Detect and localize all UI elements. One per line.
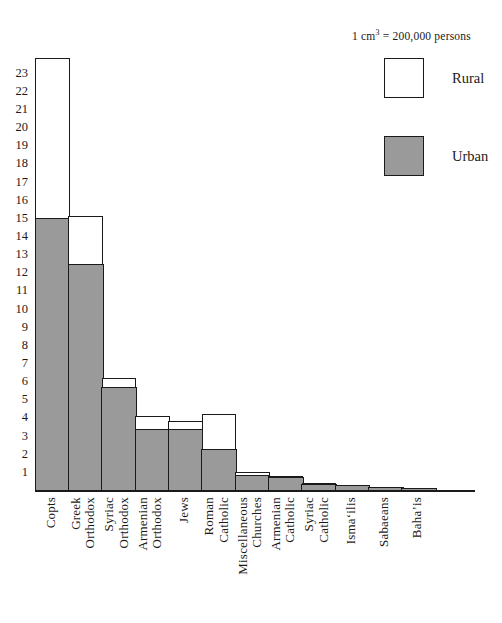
bar-urban-segment <box>301 484 337 490</box>
y-axis-tick: 16 <box>16 194 29 207</box>
bar-jews <box>168 421 203 490</box>
y-axis-tick: 15 <box>16 212 29 225</box>
y-axis-tick: 13 <box>16 248 29 261</box>
x-axis-label-line: Catholic <box>217 497 230 543</box>
x-axis-labels: CoptsGreekOrthodoxSyriacOrthodoxArmenian… <box>35 497 475 623</box>
bar-urban-segment <box>168 429 204 491</box>
bar-syriac-catholic <box>302 483 337 490</box>
bar-urban-segment <box>268 477 304 491</box>
x-axis-label-line: Baha’is <box>410 497 423 538</box>
y-axis-tick: 2 <box>22 447 28 460</box>
x-axis-label-line: Armenian <box>136 497 149 551</box>
x-axis-label-line: Copts <box>44 497 57 528</box>
bar-copts <box>35 58 70 490</box>
y-axis-tick: 6 <box>22 375 28 388</box>
y-axis: 2322212019181716151413121110987654321 <box>0 0 35 623</box>
y-axis-tick: 3 <box>22 429 28 442</box>
bar-urban-segment <box>368 487 404 490</box>
legend-scale-prefix: 1 cm <box>352 30 375 42</box>
y-axis-tick: 17 <box>16 175 29 188</box>
x-axis-label-line: Greek <box>69 497 82 530</box>
y-axis-tick: 5 <box>22 393 28 406</box>
y-axis-tick: 9 <box>22 320 28 333</box>
x-axis-label-line: Jews <box>177 497 190 523</box>
y-axis-tick: 11 <box>16 284 28 297</box>
plot-area <box>35 55 435 490</box>
population-bar-chart: 1 cm3 = 200,000 persons Rural Urban 2322… <box>0 0 502 623</box>
x-axis-label-line: Orthodox <box>117 497 130 548</box>
bar-syriac-orthodox <box>102 378 137 490</box>
y-axis-tick: 1 <box>22 466 28 479</box>
bar-greek-orthodox <box>68 216 103 490</box>
bar-baha-is <box>402 488 437 490</box>
bar-urban-segment <box>35 218 71 490</box>
legend-scale-note: 1 cm3 = 200,000 persons <box>352 28 502 42</box>
bar-miscellaneous-churches <box>235 472 270 490</box>
bar-roman-catholic <box>202 414 237 490</box>
x-axis-label-line: Sabaeans <box>377 497 390 547</box>
y-axis-tick: 20 <box>16 121 29 134</box>
bar-sabaeans <box>368 487 403 490</box>
x-axis-label-line: Isma‘ilis <box>344 497 357 544</box>
x-axis-label-line: Orthodox <box>150 497 163 548</box>
y-axis-tick: 22 <box>16 85 29 98</box>
x-axis-label-line: Catholic <box>317 497 330 543</box>
x-axis-label-line: Syriac <box>102 497 115 531</box>
legend-label-rural: Rural <box>452 70 484 87</box>
y-axis-tick: 18 <box>16 157 29 170</box>
x-axis-label-line: Orthodox <box>83 497 96 548</box>
x-axis-label-line: Roman <box>202 497 215 536</box>
y-axis-tick: 7 <box>22 357 28 370</box>
x-axis-label-line: Catholic <box>283 497 296 543</box>
x-axis-label-line: Churches <box>250 497 263 548</box>
bar-urban-segment <box>135 429 171 491</box>
x-axis-label-line: Syriac <box>302 497 315 531</box>
y-axis-tick: 21 <box>16 103 29 116</box>
y-axis-tick: 23 <box>16 67 29 80</box>
legend-scale-suffix: = 200,000 persons <box>380 30 471 42</box>
bar-armenian-orthodox <box>135 416 170 490</box>
bar-urban-segment <box>235 475 271 490</box>
x-axis-label-line: Miscellaneous <box>236 497 249 575</box>
bar-urban-segment <box>335 485 371 490</box>
bar-urban-segment <box>68 264 104 491</box>
bar-urban-segment <box>201 449 237 491</box>
bar-urban-segment <box>101 387 137 490</box>
y-axis-tick: 12 <box>16 266 29 279</box>
y-axis-tick: 8 <box>22 339 28 352</box>
chart-legend: 1 cm3 = 200,000 persons Rural Urban <box>352 28 502 42</box>
y-axis-tick: 10 <box>16 302 29 315</box>
bar-isma-ilis <box>335 485 370 490</box>
y-axis-tick: 19 <box>16 139 29 152</box>
y-axis-tick: 4 <box>22 411 28 424</box>
bar-armenian-catholic <box>268 476 303 491</box>
bar-urban-segment <box>401 488 437 490</box>
y-axis-tick: 14 <box>16 230 29 243</box>
x-axis-label-line: Armenian <box>269 497 282 551</box>
legend-label-urban: Urban <box>452 148 488 165</box>
